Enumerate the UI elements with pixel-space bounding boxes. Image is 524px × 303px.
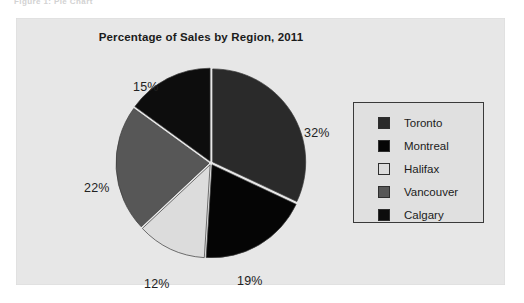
legend-swatch-icon (378, 163, 390, 175)
pie-label-montreal: 19% (237, 274, 263, 288)
legend-swatch-icon (378, 186, 390, 198)
legend-item-label: Montreal (404, 140, 449, 152)
legend-item-label: Calgary (404, 209, 444, 221)
legend-item-halifax[interactable]: Halifax (378, 162, 439, 176)
pie-label-vancouver: 22% (84, 181, 110, 195)
chart-legend: TorontoMontrealHalifaxVancouverCalgary (353, 102, 484, 223)
chart-panel: Percentage of Sales by Region, 2011 32%1… (16, 18, 505, 285)
figure-caption: Figure 1: Pie Chart (14, 0, 93, 6)
legend-item-toronto[interactable]: Toronto (378, 116, 442, 130)
legend-item-montreal[interactable]: Montreal (378, 139, 449, 153)
pie-label-toronto: 32% (304, 126, 330, 140)
pie-label-calgary: 15% (133, 80, 159, 94)
chart-title: Percentage of Sales by Region, 2011 (16, 31, 386, 43)
legend-item-calgary[interactable]: Calgary (378, 208, 444, 222)
figure-root: Figure 1: Pie Chart Percentage of Sales … (0, 0, 524, 303)
pie-label-halifax: 12% (144, 277, 170, 291)
legend-item-label: Vancouver (404, 186, 458, 198)
legend-swatch-icon (378, 209, 390, 221)
legend-swatch-icon (378, 140, 390, 152)
legend-item-vancouver[interactable]: Vancouver (378, 185, 458, 199)
legend-item-label: Halifax (404, 163, 439, 175)
legend-swatch-icon (378, 117, 390, 129)
legend-item-label: Toronto (404, 117, 442, 129)
